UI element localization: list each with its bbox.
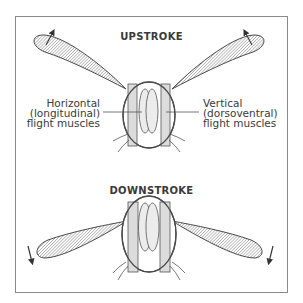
upstroke-group	[34, 32, 264, 152]
insect-flight-diagram	[0, 0, 303, 303]
horizontal-muscle-label-line3: flight muscles	[27, 118, 100, 128]
downstroke-horizontal-muscle-right-lobe	[146, 203, 159, 251]
downstroke-left-arrow-icon	[28, 246, 32, 262]
upstroke-horizontal-muscle-right-lobe	[146, 89, 158, 133]
downstroke-thorax	[113, 196, 185, 280]
downstroke-left-wing	[37, 221, 127, 258]
upstroke-right-wing	[172, 35, 264, 89]
upstroke-title: UPSTROKE	[0, 31, 303, 42]
downstroke-group	[28, 196, 273, 280]
upstroke-thorax	[113, 82, 185, 152]
horizontal-muscle-label: Horizontal (longitudinal) flight muscles	[27, 98, 100, 128]
vertical-muscle-label-line3: flight muscles	[203, 118, 278, 128]
downstroke-right-vertical-muscle	[160, 202, 170, 272]
upstroke-left-wing	[34, 35, 126, 89]
vertical-muscle-label: Vertical (dorsoventral) flight muscles	[203, 98, 278, 128]
downstroke-title: DOWNSTROKE	[0, 185, 303, 196]
downstroke-left-vertical-muscle	[128, 202, 138, 272]
downstroke-right-wing	[172, 221, 262, 258]
downstroke-right-arrow-icon	[269, 246, 273, 262]
